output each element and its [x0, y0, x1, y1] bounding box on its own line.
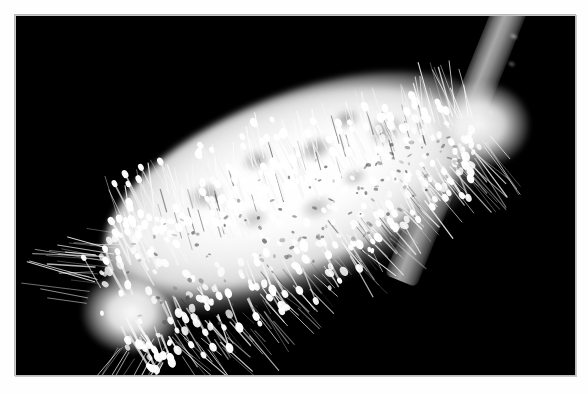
photograph: [15, 15, 575, 375]
photo-stage: [15, 15, 575, 375]
photo-page: pussy willow catkin: [0, 0, 588, 394]
catkin-anthers: [15, 15, 575, 375]
